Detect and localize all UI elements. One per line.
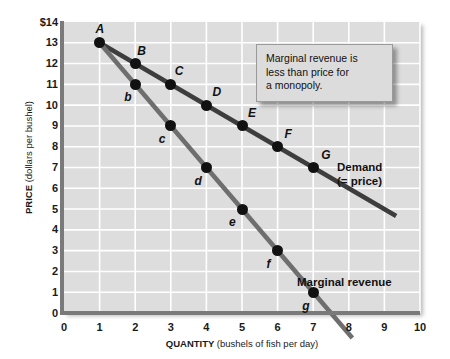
x-tick-label-6: 6 (266, 322, 290, 333)
data-point-label-d: d (194, 175, 201, 187)
x-axis-line (60, 311, 420, 315)
data-point-marker-b (130, 79, 141, 90)
annotation-line-2: less than price for (266, 66, 384, 80)
x-axis-title-unit: (bushels of fish per day) (217, 338, 318, 349)
data-point-marker-B (130, 58, 141, 69)
data-point-label-f: f (267, 258, 271, 270)
marginal-revenue-curve-label: Marginal revenue (297, 276, 392, 288)
y-axis-line (60, 21, 64, 315)
economics-chart-figure: $14131211109876543210 012345678910 PRICE… (0, 0, 450, 359)
data-point-label-c: c (159, 133, 166, 145)
x-axis-tick-labels: 012345678910 (0, 322, 450, 336)
demand-curve-label-line2: (= price) (337, 174, 382, 188)
data-point-label-E: E (248, 107, 256, 119)
x-tick-label-1: 1 (88, 322, 112, 333)
y-axis-title-unit: (dollars per bushel) (23, 101, 34, 182)
x-tick-label-7: 7 (301, 322, 325, 333)
data-point-marker-G (308, 162, 319, 173)
data-point-label-G: G (321, 149, 330, 161)
data-point-label-B: B (137, 45, 146, 57)
data-point-label-g: g (302, 300, 309, 312)
data-point-marker-e (237, 204, 248, 215)
y-axis-title-bold: PRICE (23, 185, 34, 214)
data-point-marker-g (308, 287, 319, 298)
y-axis-title: PRICE (dollars per bushel) (23, 83, 34, 233)
x-axis-title-bold: QUANTITY (166, 338, 214, 349)
y-tick-label-2: 2 (22, 266, 58, 277)
x-tick-label-10: 10 (408, 322, 432, 333)
y-tick-label-0: 0 (22, 308, 58, 319)
y-tick-label-3: 3 (22, 245, 58, 256)
demand-curve-label: Demand (= price) (337, 160, 382, 188)
annotation-callout-box: Marginal revenue is less than price for … (256, 44, 393, 102)
x-tick-label-4: 4 (194, 322, 218, 333)
annotation-line-3: a monopoly. (266, 79, 384, 93)
y-tick-label-1: 1 (22, 287, 58, 298)
x-tick-label-0: 0 (52, 322, 76, 333)
data-point-marker-d (201, 162, 212, 173)
data-point-label-b: b (124, 91, 131, 103)
data-point-label-D: D (212, 86, 221, 98)
annotation-line-1: Marginal revenue is (266, 52, 384, 66)
x-tick-label-5: 5 (230, 322, 254, 333)
data-point-label-C: C (175, 65, 184, 77)
x-tick-label-3: 3 (159, 322, 183, 333)
data-point-label-e: e (229, 216, 236, 228)
data-point-marker-D (201, 100, 212, 111)
y-tick-label-13: 13 (22, 37, 58, 48)
x-tick-label-9: 9 (372, 322, 396, 333)
data-point-marker-E (237, 120, 248, 131)
x-tick-label-8: 8 (337, 322, 361, 333)
data-point-label-A: A (96, 23, 105, 35)
x-axis-title: QUANTITY (bushels of fish per day) (64, 338, 420, 349)
x-tick-label-2: 2 (123, 322, 147, 333)
data-point-label-F: F (285, 128, 292, 140)
y-tick-label-14: $14 (22, 17, 58, 28)
demand-curve-label-line1: Demand (337, 160, 382, 174)
y-tick-label-12: 12 (22, 58, 58, 69)
